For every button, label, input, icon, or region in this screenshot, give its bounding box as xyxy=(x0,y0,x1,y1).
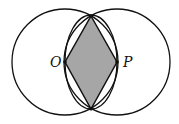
geometry-diagram: O P xyxy=(0,0,179,124)
point-P xyxy=(115,60,119,64)
label-O: O xyxy=(50,54,62,70)
point-bottom xyxy=(90,108,93,111)
point-top xyxy=(90,15,93,18)
label-P: P xyxy=(122,54,133,70)
point-O xyxy=(63,60,67,64)
